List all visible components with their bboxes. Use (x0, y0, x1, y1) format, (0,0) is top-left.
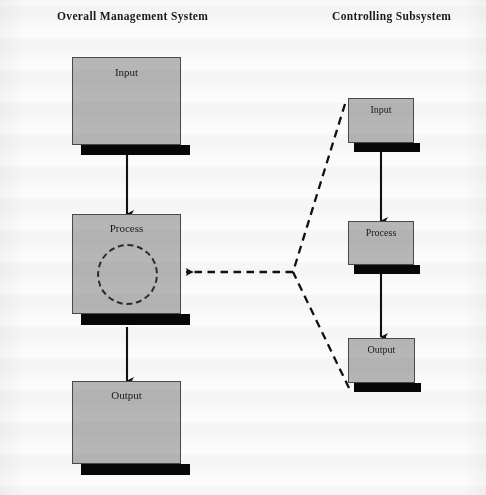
node-right-input[interactable]: Input (348, 98, 424, 158)
node-left-output[interactable]: Output (72, 381, 192, 479)
node-right-output[interactable]: Output (348, 338, 426, 398)
box-shadow (81, 464, 190, 475)
box-shadow (81, 145, 190, 155)
box-shadow (354, 143, 420, 152)
node-label: Process (72, 222, 181, 234)
box-shadow (354, 383, 421, 392)
node-label: Output (72, 389, 181, 401)
node-left-process[interactable]: Process (72, 214, 192, 330)
node-label: Output (348, 344, 415, 355)
diagram-canvas: Overall Management System Controlling Su… (0, 0, 486, 495)
column-title-right: Controlling Subsystem (332, 10, 451, 22)
column-title-left: Overall Management System (57, 10, 208, 22)
node-label: Input (348, 104, 414, 115)
connector-feedback-from-right-output (293, 272, 349, 388)
connector-feedback-from-right-input (293, 104, 345, 272)
node-left-input[interactable]: Input (72, 57, 188, 153)
box-shadow (81, 314, 190, 325)
process-dashed-circle-icon (97, 244, 158, 305)
node-right-process[interactable]: Process (348, 221, 424, 281)
box-shadow (354, 265, 420, 274)
node-label: Input (72, 66, 181, 78)
node-label: Process (348, 227, 414, 238)
